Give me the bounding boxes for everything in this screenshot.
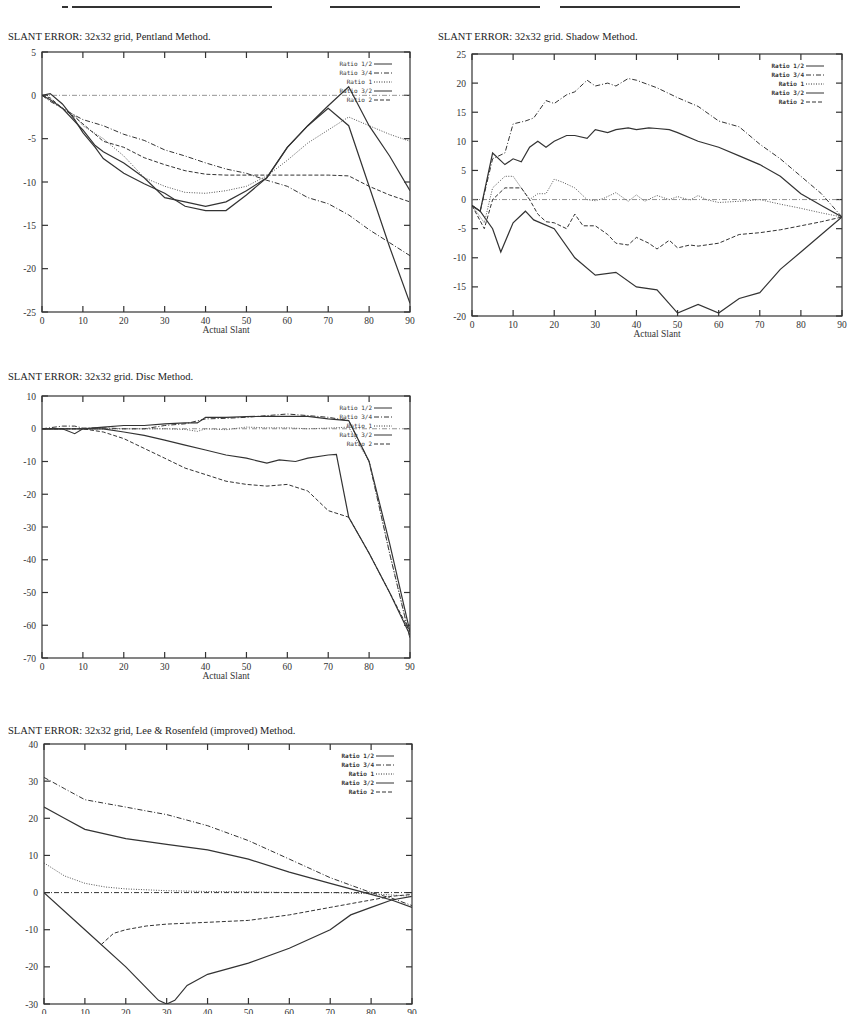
y-tick-label: 20 bbox=[29, 814, 39, 824]
x-tick-label: 30 bbox=[162, 1008, 172, 1014]
y-tick-label: -10 bbox=[23, 457, 36, 467]
legend-label: Ratio 1 bbox=[349, 770, 375, 777]
chart-svg: SLANT ERROR: 32x32 grid. Disc Method.100… bbox=[0, 370, 430, 680]
legend-label: Ratio 3/2 bbox=[771, 89, 804, 96]
chart-legend: Ratio 1/2Ratio 3/4Ratio 1Ratio 3/2Ratio … bbox=[341, 752, 394, 795]
legend-label: Ratio 3/4 bbox=[771, 71, 804, 78]
y-tick-label: 10 bbox=[27, 392, 37, 402]
series-line-ratio-3-2 bbox=[42, 87, 410, 211]
legend-label: Ratio 2 bbox=[347, 96, 373, 103]
y-tick-label: 0 bbox=[31, 91, 36, 101]
y-tick-label: -20 bbox=[23, 490, 36, 500]
y-tick-label: -20 bbox=[23, 264, 36, 274]
legend-label: Ratio 3/2 bbox=[339, 87, 372, 94]
y-tick-label: 15 bbox=[457, 108, 467, 118]
x-tick-label: 60 bbox=[285, 1008, 295, 1014]
y-tick-label: 0 bbox=[33, 888, 38, 898]
chart-lee-rosenfeld: SLANT ERROR: 32x32 grid, Lee & Rosenfeld… bbox=[0, 700, 430, 1014]
legend-label: Ratio 1/2 bbox=[339, 60, 372, 67]
legend-label: Ratio 1 bbox=[347, 78, 373, 85]
series-line-ratio-1-2 bbox=[472, 205, 842, 313]
series-group bbox=[44, 777, 412, 1004]
chart-shadow: SLANT ERROR: 32x32 grid. Shadow Method.2… bbox=[430, 30, 852, 340]
x-tick-label: 60 bbox=[714, 320, 724, 330]
series-line-ratio-1 bbox=[42, 427, 410, 638]
x-tick-label: 10 bbox=[78, 662, 88, 672]
y-tick-label: -15 bbox=[453, 282, 466, 292]
legend-label: Ratio 3/2 bbox=[341, 779, 374, 786]
y-tick-label: 10 bbox=[457, 137, 467, 147]
cropped-page-header bbox=[0, 0, 852, 8]
chart-legend: Ratio 1/2Ratio 3/4Ratio 1Ratio 3/2Ratio … bbox=[339, 404, 392, 447]
chart-disc: SLANT ERROR: 32x32 grid. Disc Method.100… bbox=[0, 370, 430, 680]
x-tick-label: 70 bbox=[325, 1008, 335, 1014]
series-line-ratio-2 bbox=[42, 95, 410, 202]
x-tick-label: 50 bbox=[244, 1008, 254, 1014]
y-tick-label: -20 bbox=[25, 962, 38, 972]
y-tick-label: -60 bbox=[23, 621, 36, 631]
legend-label: Ratio 3/4 bbox=[339, 413, 372, 420]
x-axis-label: Actual Slant bbox=[202, 325, 250, 335]
y-tick-label: 25 bbox=[457, 50, 467, 60]
x-tick-label: 30 bbox=[160, 662, 170, 672]
y-tick-label: -20 bbox=[453, 312, 466, 322]
chart-svg: SLANT ERROR: 32x32 grid, Pentland Method… bbox=[0, 30, 430, 340]
chart-title: SLANT ERROR: 32x32 grid. Shadow Method. bbox=[438, 31, 638, 42]
legend-label: Ratio 1/2 bbox=[341, 752, 374, 759]
y-tick-label: -10 bbox=[25, 925, 38, 935]
y-tick-label: 10 bbox=[29, 851, 39, 861]
x-tick-label: 0 bbox=[42, 1008, 47, 1014]
y-tick-label: -70 bbox=[23, 654, 36, 664]
series-line-ratio-1 bbox=[44, 863, 412, 896]
x-tick-label: 70 bbox=[323, 316, 333, 326]
y-tick-label: -50 bbox=[23, 588, 36, 598]
series-line-ratio-3-2 bbox=[472, 128, 842, 217]
legend-label: Ratio 2 bbox=[347, 440, 373, 447]
y-tick-label: 5 bbox=[31, 48, 36, 58]
x-tick-label: 90 bbox=[407, 1008, 417, 1014]
y-tick-label: -25 bbox=[23, 308, 36, 318]
x-tick-label: 20 bbox=[119, 662, 129, 672]
x-tick-label: 10 bbox=[508, 320, 518, 330]
x-axis-label: Actual Slant bbox=[202, 671, 250, 680]
x-tick-label: 80 bbox=[796, 320, 806, 330]
series-group bbox=[472, 79, 842, 314]
x-tick-label: 40 bbox=[203, 1008, 213, 1014]
x-tick-label: 80 bbox=[364, 316, 374, 326]
y-tick-label: -5 bbox=[28, 134, 36, 144]
legend-label: Ratio 3/4 bbox=[341, 761, 374, 768]
x-tick-label: 20 bbox=[121, 1008, 131, 1014]
y-tick-label: -30 bbox=[23, 523, 36, 533]
chart-title: SLANT ERROR: 32x32 grid, Pentland Method… bbox=[8, 31, 211, 42]
chart-svg: SLANT ERROR: 32x32 grid. Shadow Method.2… bbox=[430, 30, 852, 340]
y-tick-label: 0 bbox=[31, 424, 36, 434]
y-tick-label: 30 bbox=[29, 777, 39, 787]
x-tick-label: 90 bbox=[405, 662, 415, 672]
x-tick-label: 0 bbox=[40, 662, 45, 672]
legend-label: Ratio 2 bbox=[779, 98, 805, 105]
chart-legend: Ratio 1/2Ratio 3/4Ratio 1Ratio 3/2Ratio … bbox=[339, 60, 392, 103]
x-tick-label: 80 bbox=[366, 1008, 376, 1014]
chart-title: SLANT ERROR: 32x32 grid, Lee & Rosenfeld… bbox=[8, 725, 295, 737]
x-tick-label: 30 bbox=[591, 320, 601, 330]
x-tick-label: 80 bbox=[364, 662, 374, 672]
series-group bbox=[42, 414, 410, 638]
y-tick-label: -10 bbox=[23, 178, 36, 188]
chart-legend: Ratio 1/2Ratio 3/4Ratio 1Ratio 3/2Ratio … bbox=[771, 62, 824, 105]
y-tick-label: -5 bbox=[458, 224, 466, 234]
chart-pentland: SLANT ERROR: 32x32 grid, Pentland Method… bbox=[0, 30, 430, 340]
series-line-ratio-1-2 bbox=[42, 416, 410, 632]
x-tick-label: 90 bbox=[405, 316, 415, 326]
series-line-ratio-1-2 bbox=[44, 893, 412, 1004]
legend-label: Ratio 3/4 bbox=[339, 69, 372, 76]
legend-label: Ratio 1 bbox=[779, 80, 805, 87]
x-tick-label: 20 bbox=[549, 320, 559, 330]
y-tick-label: 0 bbox=[461, 195, 466, 205]
x-axis-label: Actual Slant bbox=[633, 329, 681, 339]
x-tick-label: 20 bbox=[119, 316, 129, 326]
x-tick-label: 0 bbox=[40, 316, 45, 326]
legend-label: Ratio 2 bbox=[349, 788, 375, 795]
legend-label: Ratio 3/2 bbox=[339, 431, 372, 438]
legend-label: Ratio 1/2 bbox=[339, 404, 372, 411]
series-line-ratio-2 bbox=[42, 429, 410, 632]
